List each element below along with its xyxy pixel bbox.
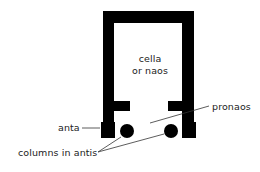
pronaos-label: pronaos	[212, 101, 251, 112]
right-side-wall	[182, 11, 194, 123]
columns-in-antis	[120, 124, 178, 138]
cella-label-line1: cella	[139, 53, 162, 64]
left-side-wall	[103, 11, 114, 123]
anta-label: anta	[58, 122, 80, 133]
column-left-leader-line	[98, 137, 121, 152]
cella-label-line2: or naos	[132, 65, 168, 76]
column-left	[120, 124, 134, 138]
temple-plan-diagram: cella or naos pronaos anta columns in an…	[0, 0, 260, 172]
columns-in-antis-label: columns in antis	[18, 147, 97, 158]
column-right	[164, 124, 178, 138]
left-door-jamb	[114, 101, 130, 111]
anta-right	[182, 122, 196, 138]
right-door-jamb	[168, 101, 182, 111]
anta-left	[101, 122, 115, 138]
back-wall	[103, 11, 194, 23]
